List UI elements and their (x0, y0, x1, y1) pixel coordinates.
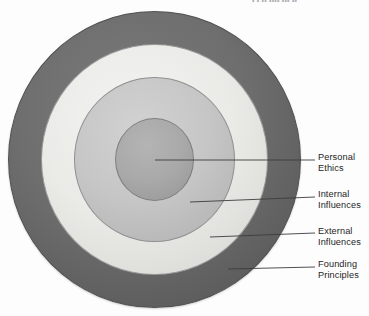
callout-founding-principles-line-2: Principles (318, 270, 359, 281)
concentric-rings-diagram: Personal Ethics Internal Influences Exte… (0, 0, 369, 316)
diagram-page: • • •• •••• ••• •• Personal Ethics Inter… (0, 0, 369, 316)
callout-internal-influences: Internal Influences (318, 189, 361, 212)
callout-personal-ethics: Personal Ethics (318, 152, 355, 175)
callout-external-influences: External Influences (318, 226, 361, 249)
callout-external-influences-line-1: External (318, 226, 361, 237)
leader-line-founding-principles (228, 267, 315, 269)
callout-internal-influences-line-1: Internal (318, 189, 361, 200)
leader-line-external-influences (210, 233, 315, 237)
callout-layer: Personal Ethics Internal Influences Exte… (0, 0, 369, 316)
callout-personal-ethics-line-1: Personal (318, 152, 355, 163)
leader-lines-group (0, 0, 369, 316)
leader-line-internal-influences (190, 197, 315, 202)
callout-external-influences-line-2: Influences (318, 237, 361, 248)
callout-internal-influences-line-2: Influences (318, 200, 361, 211)
callout-founding-principles: Founding Principles (318, 259, 359, 282)
callout-personal-ethics-line-2: Ethics (318, 163, 355, 174)
callout-founding-principles-line-1: Founding (318, 259, 359, 270)
